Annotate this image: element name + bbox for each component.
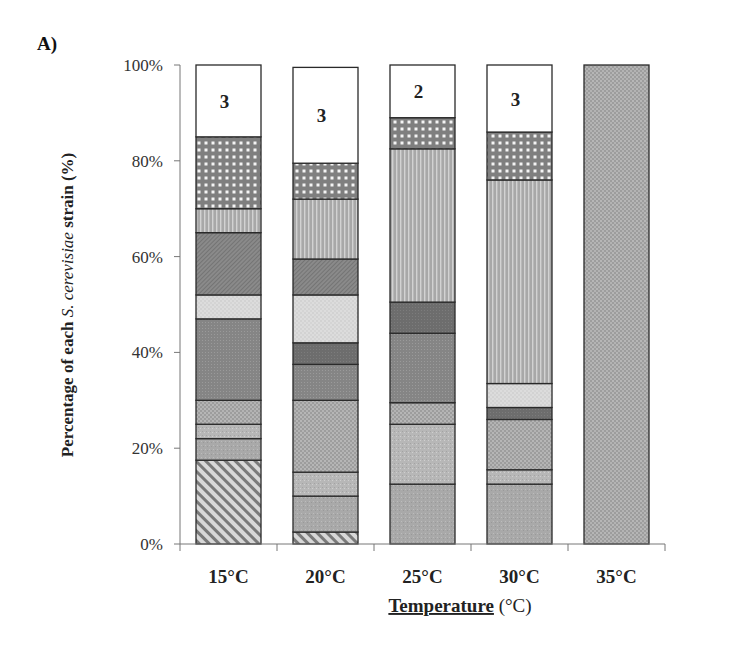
segment-dark-dotted — [390, 333, 455, 402]
x-axis-ticks: 15°C20°C25°C30°C35°C — [180, 544, 665, 587]
y-tick-label: 80% — [132, 152, 163, 171]
segment-light-dotted — [487, 384, 552, 408]
segment-vertical-stripes — [487, 180, 552, 384]
y-tick-label: 60% — [132, 248, 163, 267]
bar-20C — [293, 67, 358, 544]
segment-dark-solid — [293, 343, 358, 365]
segment-light-dotted — [293, 295, 358, 343]
y-tick-label: 20% — [132, 439, 163, 458]
segment-checkered — [487, 132, 552, 180]
x-tick-label: 35°C — [596, 566, 636, 587]
segment-small-dots — [293, 400, 358, 472]
segment-hatched — [293, 532, 358, 544]
segment-small-dots — [487, 419, 552, 469]
x-tick-label: 30°C — [499, 566, 539, 587]
x-axis-label-main: Temperature — [388, 595, 494, 616]
segment-gray — [293, 496, 358, 532]
segment-checkered — [390, 118, 455, 149]
y-axis-label-part1: Percentage of each — [58, 317, 77, 457]
bar-annotation: 2 — [414, 81, 424, 102]
bar-annotation: 3 — [317, 105, 327, 126]
x-tick-label: 20°C — [305, 566, 345, 587]
bar-30C — [487, 65, 552, 544]
y-axis-label-species: S. cerevisiae — [58, 232, 77, 318]
segment-small-dots — [584, 65, 649, 544]
bar-25C — [390, 65, 455, 544]
bar-annotation: 3 — [220, 91, 230, 112]
segment-gray-light — [487, 470, 552, 484]
bar-35C — [584, 65, 649, 544]
segment-dark-solid — [390, 302, 455, 333]
segment-hatched — [196, 460, 261, 544]
segment-vertical-stripes — [390, 149, 455, 302]
y-axis-ticks: 0%20%40%60%80%100% — [123, 56, 180, 554]
x-axis-label: Temperature (°C) — [388, 595, 531, 617]
segment-diagonal-dark — [293, 259, 358, 295]
segment-vertical-stripes — [196, 209, 261, 233]
segment-vertical-stripes — [293, 199, 358, 259]
segment-dark-solid — [487, 407, 552, 419]
x-axis-label-unit: (°C) — [499, 595, 532, 617]
segment-dark-dotted — [293, 364, 358, 400]
segment-small-dots — [196, 400, 261, 424]
segment-gray-light — [293, 472, 358, 496]
segment-gray — [487, 484, 552, 544]
y-tick-label: 100% — [123, 56, 163, 75]
segment-gray — [196, 439, 261, 461]
segment-gray — [390, 484, 455, 544]
y-axis-label: Percentage of each S. cerevisiae strain … — [58, 153, 77, 458]
stacked-bar-chart: 0%20%40%60%80%100% 3323 15°C20°C25°C30°C… — [0, 0, 733, 654]
segment-small-dots — [390, 403, 455, 425]
x-tick-label: 25°C — [402, 566, 442, 587]
segment-light-dotted — [196, 295, 261, 319]
segment-diagonal-dark — [196, 233, 261, 295]
y-tick-label: 40% — [132, 343, 163, 362]
bars: 3323 — [196, 65, 649, 544]
segment-checkered — [293, 163, 358, 199]
x-tick-label: 15°C — [208, 566, 248, 587]
segment-gray-light — [196, 424, 261, 438]
bar-15C — [196, 65, 261, 544]
y-tick-label: 0% — [140, 535, 163, 554]
segment-dark-dotted — [196, 319, 261, 400]
segment-gray-light — [390, 424, 455, 484]
y-axis-label-part3: strain (%) — [58, 153, 77, 228]
segment-checkered — [196, 137, 261, 209]
bar-annotation: 3 — [511, 89, 521, 110]
